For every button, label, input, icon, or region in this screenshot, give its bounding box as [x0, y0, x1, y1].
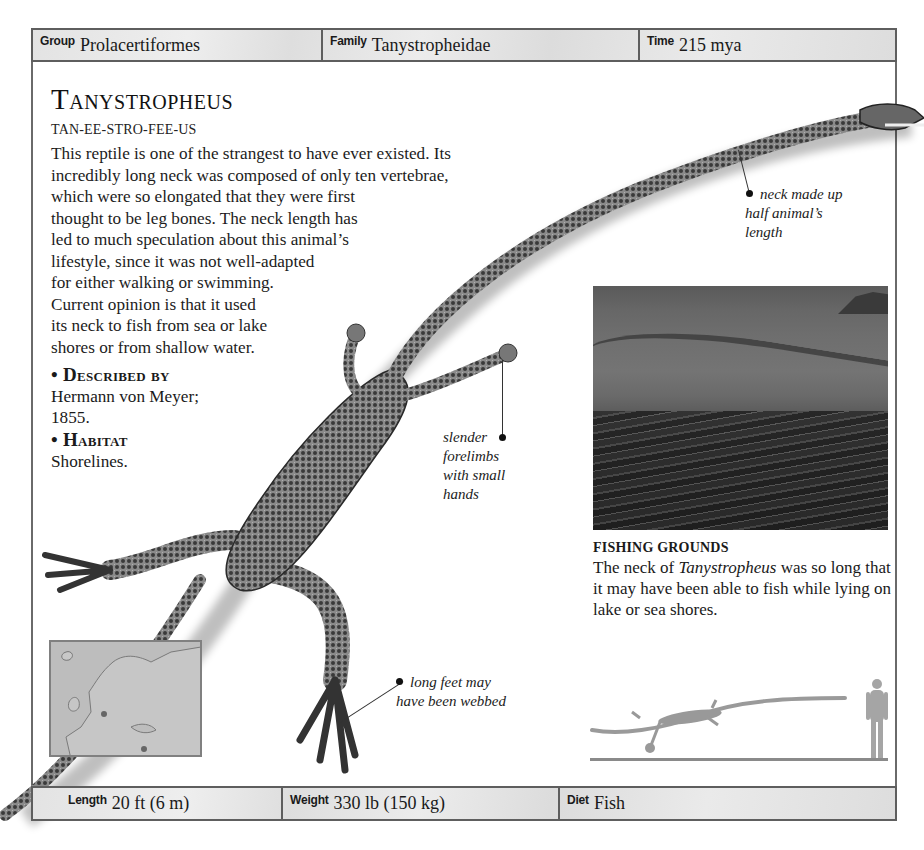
human-silhouette-icon [866, 679, 888, 758]
weight-cell: Weight 330 lb (150 kg) [283, 788, 560, 819]
locator-map [49, 640, 202, 757]
length-cell: Length 20 ft (6 m) [33, 788, 283, 819]
diet-cell: Diet Fish [560, 788, 895, 819]
length-value: 20 ft (6 m) [112, 793, 189, 814]
scale-ground-line [590, 758, 888, 761]
weight-value: 330 lb (150 kg) [334, 793, 446, 814]
weight-label: Weight [290, 793, 329, 807]
diet-label: Diet [567, 793, 589, 807]
europe-map-icon [51, 642, 202, 757]
stats-bar: Length 20 ft (6 m) Weight 330 lb (150 kg… [31, 786, 897, 821]
diet-value: Fish [594, 793, 625, 814]
length-label: Length [68, 793, 107, 807]
